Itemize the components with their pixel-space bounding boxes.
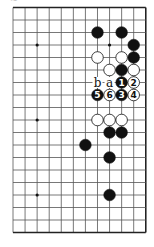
move-number-6: 6: [106, 90, 112, 100]
black-stone: [128, 39, 140, 51]
white-stone: [128, 64, 140, 76]
star-point: [36, 118, 39, 121]
black-stone: [92, 27, 104, 39]
black-stone: [104, 152, 116, 164]
black-stone: [116, 27, 128, 39]
white-stone: [104, 64, 116, 76]
black-stone: [116, 127, 128, 139]
black-stone: [116, 64, 128, 76]
white-stone: [104, 114, 116, 126]
star-point: [108, 43, 111, 46]
go-board: ba 123456: [0, 0, 154, 247]
black-stone: [128, 52, 140, 64]
move-number-3: 3: [118, 90, 124, 100]
move-number-5: 5: [94, 90, 100, 100]
black-stone: [104, 127, 116, 139]
star-point: [36, 43, 39, 46]
white-stone: [116, 52, 128, 64]
white-stone: [92, 52, 104, 64]
move-number-1: 1: [118, 78, 124, 88]
move-number-2: 2: [131, 78, 137, 88]
black-stone: [104, 189, 116, 201]
star-point: [36, 193, 39, 196]
white-stone: [92, 114, 104, 126]
white-stone: [116, 114, 128, 126]
move-number-4: 4: [131, 90, 137, 100]
black-stone: [80, 139, 92, 151]
point-label-a: a: [106, 76, 113, 90]
point-label-b: b: [94, 76, 102, 90]
